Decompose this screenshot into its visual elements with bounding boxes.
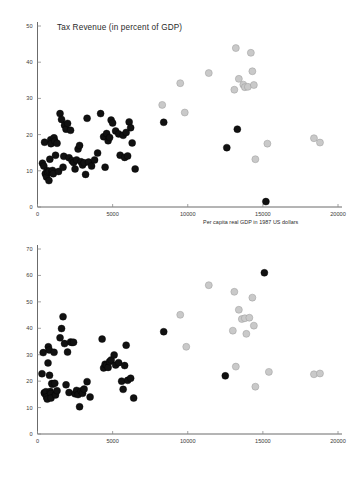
y-tick-label: 10: [26, 405, 32, 411]
data-point: [84, 115, 91, 122]
data-point: [231, 288, 238, 295]
data-point: [81, 386, 88, 393]
data-point: [63, 381, 70, 388]
data-point: [316, 370, 323, 377]
y-tick-label: 50: [26, 23, 32, 29]
data-point: [250, 322, 257, 329]
x-tick-label: 5000: [106, 438, 118, 444]
data-point: [235, 75, 242, 82]
chart-title-tax-revenue: Tax Revenue (in percent of GDP): [57, 23, 182, 32]
data-point: [67, 127, 74, 134]
data-point: [66, 389, 73, 396]
data-point: [130, 395, 137, 402]
data-point: [46, 372, 53, 379]
y-tick-label: 20: [26, 132, 32, 138]
series-industrial-countries-light: [159, 45, 324, 163]
data-point: [109, 120, 116, 127]
data-point: [223, 144, 230, 151]
data-point: [235, 306, 242, 313]
data-point: [265, 368, 272, 375]
data-point: [76, 142, 83, 149]
y-tick-label: 0: [29, 204, 32, 210]
data-point: [54, 387, 61, 394]
data-point: [58, 325, 65, 332]
data-point: [84, 378, 91, 385]
x-axis-caption-tax-revenue: Per capita real GDP in 1987 US dollars: [203, 219, 298, 225]
data-point: [45, 359, 52, 366]
data-point: [60, 313, 67, 320]
axis-lines: [38, 245, 343, 434]
data-point: [111, 351, 118, 358]
x-tick-label: 10000: [180, 211, 196, 217]
data-point: [72, 165, 79, 172]
data-point: [232, 45, 239, 52]
data-point: [229, 327, 236, 334]
data-point: [54, 140, 61, 147]
data-point: [252, 383, 259, 390]
data-point: [127, 375, 134, 382]
data-point: [160, 328, 167, 335]
data-point: [97, 110, 104, 117]
y-tick-label: 40: [26, 59, 32, 65]
data-point: [76, 403, 83, 410]
data-point: [249, 294, 256, 301]
y-tick-label: 40: [26, 325, 32, 331]
y-tick-label: 60: [26, 272, 32, 278]
data-point: [261, 269, 268, 276]
data-point: [316, 139, 323, 146]
data-point: [94, 150, 101, 157]
data-point: [70, 339, 77, 346]
data-point: [91, 156, 98, 163]
data-point: [102, 164, 109, 171]
data-point: [106, 134, 113, 141]
data-point: [252, 156, 259, 163]
y-tick-label: 30: [26, 95, 32, 101]
data-point: [181, 109, 188, 116]
tax-revenue-plot-area: 0102030405005000100001500020000: [0, 0, 361, 241]
x-tick-label: 10000: [180, 438, 196, 444]
data-point: [121, 362, 128, 369]
data-point: [123, 342, 130, 349]
data-point: [88, 163, 95, 170]
data-point: [205, 282, 212, 289]
data-point: [60, 164, 67, 171]
data-point: [39, 370, 46, 377]
chart-government-expenditure: 01020304050607005000100001500020000 Gove…: [0, 241, 361, 482]
series-developing-countries-dark: [39, 110, 269, 205]
data-point: [127, 124, 134, 131]
data-point: [132, 165, 139, 172]
y-tick-label: 10: [26, 168, 32, 174]
x-tick-label: 5000: [106, 211, 118, 217]
data-point: [177, 80, 184, 87]
data-point: [82, 171, 89, 178]
x-tick-label: 20000: [330, 211, 346, 217]
data-point: [120, 386, 127, 393]
y-tick-label: 70: [26, 246, 32, 252]
data-point: [246, 314, 253, 321]
y-tick-label: 30: [26, 352, 32, 358]
data-point: [51, 380, 58, 387]
data-point: [51, 349, 58, 356]
data-point: [222, 372, 229, 379]
data-point: [262, 198, 269, 205]
data-point: [249, 68, 256, 75]
data-point: [64, 349, 71, 356]
data-point: [310, 135, 317, 142]
y-tick-label: 50: [26, 299, 32, 305]
chart-tax-revenue: 0102030405005000100001500020000 Tax Reve…: [0, 0, 361, 241]
x-tick-label: 0: [36, 211, 39, 217]
data-point: [45, 177, 52, 184]
data-point: [57, 334, 64, 341]
data-point: [124, 152, 131, 159]
data-point: [250, 82, 257, 89]
data-point: [177, 311, 184, 318]
x-tick-label: 15000: [255, 211, 271, 217]
data-point: [159, 101, 166, 108]
data-point: [205, 70, 212, 77]
data-point: [52, 152, 59, 159]
series-industrial-countries-light: [177, 282, 324, 390]
data-point: [264, 140, 271, 147]
data-point: [243, 330, 250, 337]
y-tick-label: 20: [26, 378, 32, 384]
data-point: [232, 363, 239, 370]
